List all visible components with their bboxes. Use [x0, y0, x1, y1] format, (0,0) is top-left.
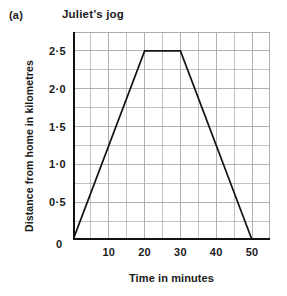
plot-area: [73, 32, 270, 240]
y-axis-title: Distance from home in kilometres: [23, 41, 35, 251]
x-tick-label: 20: [125, 246, 165, 258]
origin-tick-label: 0: [56, 238, 62, 250]
chart-title: Juliet’s jog: [62, 8, 124, 20]
x-tick-label: 50: [232, 246, 272, 258]
part-label: (a): [9, 9, 23, 21]
x-tick-label: 30: [160, 246, 200, 258]
x-tick-label: 40: [196, 246, 236, 258]
plot-svg: [73, 32, 270, 240]
x-tick-label: 10: [89, 246, 129, 258]
x-axis-title: Time in minutes: [73, 272, 270, 284]
chart-figure: (a) Juliet’s jog Distance from home in k…: [0, 0, 287, 296]
